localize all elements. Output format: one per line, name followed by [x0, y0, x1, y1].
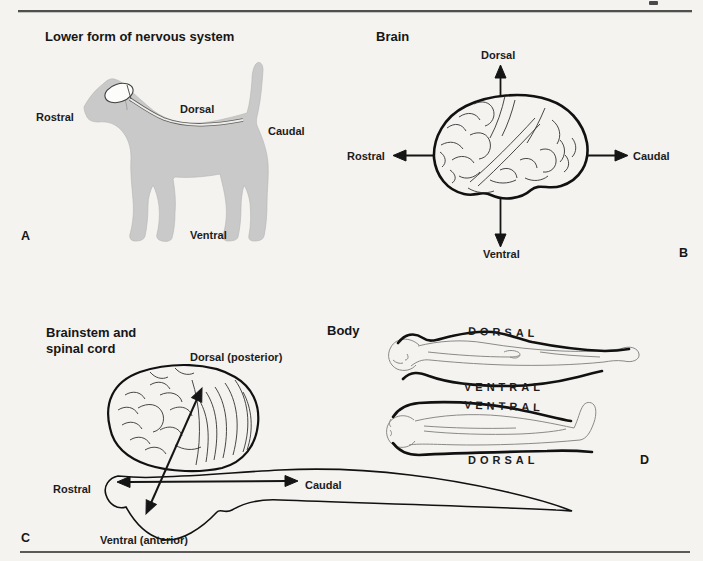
label-c-ventral: Ventral (anterior)	[100, 534, 188, 546]
panel-a-tag: A	[21, 229, 30, 243]
label-b-ventral: Ventral	[483, 248, 520, 260]
panel-d-tag: D	[640, 453, 649, 467]
label-a-dorsal: Dorsal	[180, 103, 214, 115]
textbook-figure-page: CHAPTER 1 ■ ESSENTIAL CONCEPTS AND PRINC…	[0, 0, 703, 561]
panel-d-title: Body	[327, 323, 360, 339]
label-d-prone-ventral: VENTRAL	[464, 381, 544, 393]
label-d-supine-dorsal: DORSAL	[468, 454, 538, 466]
body-prone-figure	[389, 332, 640, 386]
panel-c-title-line1: Brainstem and	[46, 325, 136, 341]
arrowhead-caudal	[615, 150, 628, 161]
label-b-caudal: Caudal	[633, 150, 670, 162]
label-c-rostral: Rostral	[53, 483, 91, 495]
label-c-dorsal: Dorsal (posterior)	[190, 351, 282, 363]
panel-c-title-line2: spinal cord	[46, 341, 115, 357]
label-a-ventral: Ventral	[190, 229, 227, 241]
dog-silhouette	[84, 62, 268, 241]
panel-b-tag: B	[679, 246, 688, 260]
arrowhead-ventral	[495, 234, 506, 247]
arrowhead-rostral	[393, 150, 406, 161]
brain-lateral-view	[434, 95, 588, 198]
label-d-prone-dorsal: DORSAL	[468, 325, 539, 340]
label-b-dorsal: Dorsal	[481, 49, 515, 61]
label-b-rostral: Rostral	[347, 150, 385, 162]
panel-a-title: Lower form of nervous system	[45, 29, 234, 45]
arrowhead-dorsal	[495, 65, 506, 78]
panel-c-tag: C	[21, 531, 30, 545]
panel-b-title: Brain	[376, 29, 409, 45]
figure-drawing	[0, 0, 703, 561]
label-a-caudal: Caudal	[268, 125, 305, 137]
label-c-caudal: Caudal	[305, 479, 342, 491]
label-a-rostral: Rostral	[36, 111, 74, 123]
